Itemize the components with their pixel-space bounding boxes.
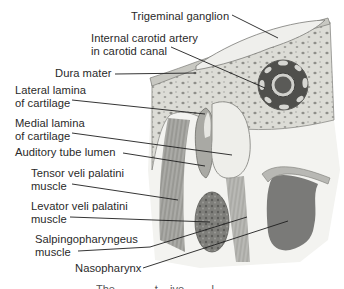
figure-caption-cropped: The ... ... ... t... ive ... ... l... xyxy=(96,283,336,289)
label-medial-lamina: Medial lamina of cartilage xyxy=(15,117,85,143)
anatomy-figure: Trigeminal ganglion Internal carotid art… xyxy=(0,0,344,289)
label-salpingopharyngeus: Salpingopharyngeus muscle xyxy=(35,233,138,259)
carotid-artery-lumen xyxy=(275,77,292,94)
label-lateral-lamina: Lateral lamina of cartilage xyxy=(15,84,86,110)
label-auditory-tube-lumen: Auditory tube lumen xyxy=(15,146,115,159)
label-tensor-veli-palatini: Tensor veli palatini muscle xyxy=(31,167,124,193)
label-dura-mater: Dura mater xyxy=(55,67,111,80)
label-levator-veli-palatini: Levator veli palatini muscle xyxy=(31,200,128,226)
label-internal-carotid-artery: Internal carotid artery in carotid canal xyxy=(91,32,198,58)
label-trigeminal-ganglion: Trigeminal ganglion xyxy=(131,10,229,23)
label-nasopharynx: Nasopharynx xyxy=(75,262,141,275)
